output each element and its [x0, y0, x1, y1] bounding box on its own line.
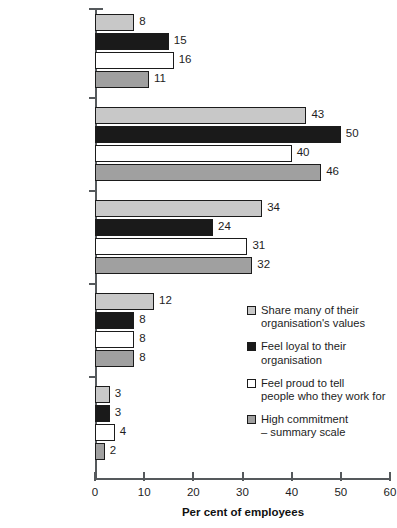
- chart-container: Strongly agree8151611Agree43504046Neithe…: [0, 0, 397, 528]
- x-axis-tick-label: 30: [223, 486, 263, 498]
- bar[interactable]: [95, 312, 134, 329]
- y-axis-tick: [89, 190, 97, 192]
- x-axis-tick: [143, 472, 145, 481]
- bar-value-label: 2: [110, 444, 116, 456]
- bar[interactable]: [95, 126, 341, 143]
- legend-label: Feel proud to tell people who they work …: [261, 377, 397, 403]
- legend-swatch-icon: [247, 379, 256, 388]
- bar-value-label: 8: [139, 313, 145, 325]
- bar[interactable]: [95, 331, 134, 348]
- bar-value-label: 8: [139, 332, 145, 344]
- bar-value-label: 11: [154, 72, 166, 84]
- x-axis-tick-label: 60: [370, 486, 397, 498]
- bar[interactable]: [95, 293, 154, 310]
- bar[interactable]: [95, 107, 306, 124]
- bar-group: Neither agree nor disagree34243132: [0, 200, 295, 274]
- bar[interactable]: [95, 14, 134, 31]
- bar-value-label: 8: [139, 351, 145, 363]
- bar[interactable]: [95, 424, 115, 441]
- legend-item[interactable]: High commitment – summary scale: [247, 413, 397, 439]
- bar[interactable]: [95, 257, 252, 274]
- legend-swatch-icon: [247, 306, 256, 315]
- bar-value-label: 16: [179, 53, 192, 65]
- bar-value-label: 3: [115, 406, 121, 418]
- x-axis-tick: [192, 472, 194, 481]
- x-axis-tick: [389, 472, 391, 481]
- x-axis-tick-label: 10: [124, 486, 164, 498]
- legend-label: Feel loyal to their organisation: [261, 340, 397, 366]
- bar-value-label: 40: [297, 146, 310, 158]
- bar-value-label: 43: [311, 108, 324, 120]
- bar[interactable]: [95, 200, 262, 217]
- bar[interactable]: [95, 238, 247, 255]
- bar[interactable]: [95, 52, 174, 69]
- bar-group: Strongly agree8151611: [0, 14, 295, 88]
- legend-item[interactable]: Feel loyal to their organisation: [247, 340, 397, 366]
- chart-legend: Share many of their organisation's value…: [247, 304, 397, 450]
- bar[interactable]: [95, 405, 110, 422]
- bar[interactable]: [95, 443, 105, 460]
- bar-value-label: 24: [218, 220, 231, 232]
- bar-value-label: 34: [267, 201, 280, 213]
- x-axis-tick: [340, 472, 342, 481]
- legend-label: Share many of their organisation's value…: [261, 304, 397, 330]
- legend-swatch-icon: [247, 342, 256, 351]
- y-axis-tick: [89, 376, 97, 378]
- bar-value-label: 15: [174, 34, 187, 46]
- legend-label: High commitment – summary scale: [261, 413, 397, 439]
- bar[interactable]: [95, 164, 321, 181]
- x-axis-title: Per cent of employees: [95, 506, 391, 518]
- bar[interactable]: [95, 71, 149, 88]
- bar-value-label: 12: [159, 294, 172, 306]
- legend-item[interactable]: Feel proud to tell people who they work …: [247, 377, 397, 403]
- bar-value-label: 4: [120, 425, 126, 437]
- bar[interactable]: [95, 219, 213, 236]
- bar-value-label: 50: [346, 127, 359, 139]
- x-axis-tick: [242, 472, 244, 481]
- y-axis-tick: [89, 283, 97, 285]
- bar[interactable]: [95, 386, 110, 403]
- x-axis-tick-label: 0: [75, 486, 115, 498]
- bar-value-label: 46: [326, 165, 339, 177]
- legend-item[interactable]: Share many of their organisation's value…: [247, 304, 397, 330]
- bar-value-label: 31: [252, 239, 265, 251]
- bar[interactable]: [95, 350, 134, 367]
- bar[interactable]: [95, 33, 169, 50]
- bar[interactable]: [95, 145, 292, 162]
- x-axis-tick-label: 50: [321, 486, 361, 498]
- x-axis-tick-label: 40: [272, 486, 312, 498]
- bar-value-label: 3: [115, 387, 121, 399]
- x-axis-tick-label: 20: [173, 486, 213, 498]
- y-axis-tick: [89, 97, 97, 99]
- bar-group: Agree43504046: [0, 107, 295, 181]
- x-axis-tick: [291, 472, 293, 481]
- legend-swatch-icon: [247, 415, 256, 424]
- x-axis-tick: [94, 472, 96, 481]
- bar-value-label: 32: [257, 258, 270, 270]
- bar-value-label: 8: [139, 15, 145, 27]
